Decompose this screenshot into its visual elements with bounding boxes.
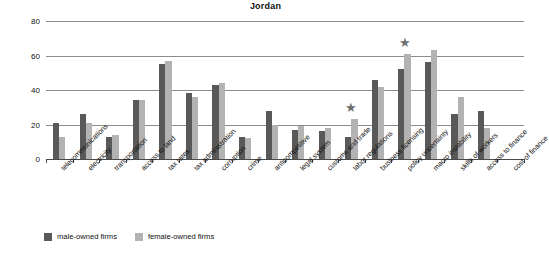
plot-area: ★★ (46, 21, 524, 159)
star-annotation-icon: ★ (399, 35, 411, 48)
legend-item: female-owned firms (135, 232, 214, 241)
bar (59, 137, 65, 159)
bar-group (53, 21, 65, 159)
x-tick (46, 159, 47, 163)
chart-legend: male-owned firmsfemale-owned firms (44, 232, 214, 241)
legend-label: female-owned firms (148, 232, 214, 241)
y-tick-label: 60 (14, 51, 40, 60)
y-tick-label: 20 (14, 120, 40, 129)
bar-group (239, 21, 251, 159)
bar-group (186, 21, 198, 159)
y-tick-label: 0 (14, 155, 40, 164)
legend-item: male-owned firms (44, 232, 117, 241)
legend-swatch (44, 233, 52, 241)
bar-group (106, 21, 118, 159)
legend-swatch (135, 233, 143, 241)
bar (192, 97, 198, 159)
bar (112, 135, 118, 159)
y-tick-label: 40 (14, 86, 40, 95)
bar-group (266, 21, 278, 159)
y-tick-label: 80 (14, 17, 40, 26)
star-annotation-icon: ★ (345, 101, 357, 114)
bar (272, 125, 278, 160)
chart-title: Jordan (0, 1, 531, 11)
legend-label: male-owned firms (57, 232, 117, 241)
